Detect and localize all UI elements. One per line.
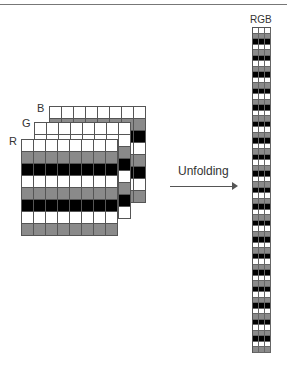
grid-cell <box>35 123 47 135</box>
grid-cell <box>134 143 146 155</box>
top-rule <box>0 4 287 5</box>
label-g: G <box>22 117 31 129</box>
grid-cell <box>119 123 131 135</box>
grid-cell <box>50 107 62 119</box>
grid-cell <box>59 123 71 135</box>
grid-cell <box>62 107 74 119</box>
grid-cell <box>119 159 131 171</box>
grid-cell <box>70 188 82 200</box>
grid-cell <box>58 164 70 176</box>
grid-cell <box>106 140 118 152</box>
grid-cell <box>106 212 118 224</box>
grid-cell <box>46 140 58 152</box>
grid-cell <box>70 152 82 164</box>
channel-r-layer <box>21 139 118 236</box>
unfolding-arrow-shaft <box>170 186 236 187</box>
grid-cell <box>58 140 70 152</box>
grid-cell <box>94 152 106 164</box>
grid-cell <box>22 188 34 200</box>
grid-cell <box>119 135 131 147</box>
grid-cell <box>134 167 146 179</box>
grid-cell <box>58 200 70 212</box>
grid-cell <box>106 200 118 212</box>
grid-cell <box>46 164 58 176</box>
grid-cell <box>70 224 82 236</box>
grid-cell <box>134 107 146 119</box>
grid-cell <box>119 183 131 195</box>
grid-cell <box>34 188 46 200</box>
grid-cell <box>265 347 271 353</box>
unfolded-rgb-column <box>252 27 271 353</box>
grid-cell <box>82 188 94 200</box>
grid-cell <box>70 200 82 212</box>
grid-cell <box>134 131 146 143</box>
column-label-rgb: RGB <box>250 14 272 25</box>
grid-cell <box>110 107 122 119</box>
grid-cell <box>98 107 110 119</box>
grid-cell <box>134 191 146 203</box>
grid-cell <box>47 123 59 135</box>
grid-cell <box>22 224 34 236</box>
grid-cell <box>70 176 82 188</box>
grid-cell <box>34 140 46 152</box>
grid-cell <box>22 176 34 188</box>
label-b: B <box>37 102 44 114</box>
grid-cell <box>106 188 118 200</box>
grid-cell <box>106 164 118 176</box>
grid-cell <box>82 140 94 152</box>
grid-cell <box>46 176 58 188</box>
grid-cell <box>34 200 46 212</box>
grid-cell <box>46 212 58 224</box>
grid-cell <box>74 107 86 119</box>
grid-cell <box>134 119 146 131</box>
grid-cell <box>82 224 94 236</box>
grid-cell <box>134 155 146 167</box>
grid-cell <box>34 176 46 188</box>
grid-cell <box>119 147 131 159</box>
grid-cell <box>94 140 106 152</box>
grid-cell <box>70 164 82 176</box>
grid-cell <box>22 152 34 164</box>
grid-cell <box>58 212 70 224</box>
grid-cell <box>106 224 118 236</box>
grid-cell <box>82 212 94 224</box>
grid-cell <box>46 188 58 200</box>
grid-cell <box>70 140 82 152</box>
grid-cell <box>119 195 131 207</box>
grid-cell <box>34 212 46 224</box>
grid-cell <box>94 188 106 200</box>
grid-cell <box>58 188 70 200</box>
grid-cell <box>83 123 95 135</box>
grid-cell <box>119 207 131 219</box>
grid-cell <box>106 176 118 188</box>
grid-cell <box>70 212 82 224</box>
grid-cell <box>34 152 46 164</box>
grid-cell <box>107 123 119 135</box>
grid-cell <box>119 171 131 183</box>
grid-cell <box>82 200 94 212</box>
grid-cell <box>34 224 46 236</box>
grid-cell <box>46 200 58 212</box>
grid-cell <box>94 212 106 224</box>
grid-cell <box>95 123 107 135</box>
grid-cell <box>58 176 70 188</box>
grid-cell <box>134 179 146 191</box>
grid-cell <box>34 164 46 176</box>
grid-cell <box>122 107 134 119</box>
arrow-head-icon <box>232 182 238 190</box>
grid-cell <box>22 200 34 212</box>
grid-cell <box>58 224 70 236</box>
grid-cell <box>82 152 94 164</box>
grid-cell <box>71 123 83 135</box>
grid-cell <box>106 152 118 164</box>
grid-cell <box>22 164 34 176</box>
grid-cell <box>22 140 34 152</box>
grid-cell <box>46 152 58 164</box>
grid-cell <box>46 224 58 236</box>
grid-cell <box>94 200 106 212</box>
grid-cell <box>58 152 70 164</box>
grid-cell <box>82 176 94 188</box>
grid-cell <box>22 212 34 224</box>
grid-cell <box>82 164 94 176</box>
grid-cell <box>94 176 106 188</box>
